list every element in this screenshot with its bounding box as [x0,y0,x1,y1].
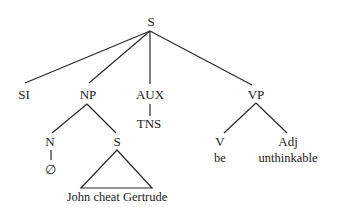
node-np: NP [80,87,97,102]
leaf-embedded-text: John cheat Gertrude [67,190,168,204]
edge-s-np [89,31,150,83]
edge-vp-v [224,103,256,133]
node-vp: VP [248,87,265,102]
node-adj: Adj [278,134,298,149]
edge-s-si [25,31,150,83]
edge-np-n [52,104,87,133]
node-n: N [45,134,55,149]
leaf-unthinkable: unthinkable [258,151,317,165]
node-v: V [215,134,225,149]
leaf-null: ∅ [45,163,56,177]
triangle-embedded-s [81,150,152,188]
node-tns: TNS [137,116,162,131]
edge-np-s [87,104,116,133]
node-si: SI [18,87,30,102]
edge-vp-adj [256,103,287,133]
node-aux: AUX [136,87,165,102]
edge-s-vp [150,31,252,85]
root-edges [25,31,252,85]
syntax-tree: S SI NP AUX VP N ∅ S John cheat Gertrude… [0,0,337,210]
node-s-root: S [147,14,154,29]
leaf-be: be [214,151,226,165]
node-s-embedded: S [113,134,120,149]
